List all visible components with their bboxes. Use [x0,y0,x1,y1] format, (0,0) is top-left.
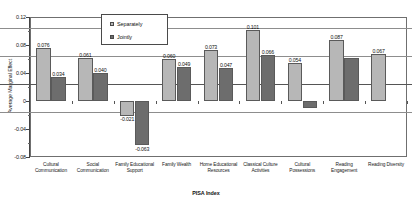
x-axis-tick-mark [156,101,157,104]
bar-value-label: 0.087 [324,34,350,40]
bar [371,54,386,101]
bar [261,55,276,101]
y-axis-tick-label: 0.12 [5,14,26,20]
x-axis-category-label: Cultural Communication [30,162,72,173]
x-axis-tick-mark [239,101,240,104]
gridline [0,112,412,113]
bar [177,67,192,101]
y-axis-tick-mark [26,17,30,18]
bar-value-label: 0.061 [72,52,98,58]
bar-value-label: -0.021 [114,116,140,122]
x-axis-tick-mark [198,101,199,104]
legend-label-jointly: Jointly [117,34,132,40]
bar-value-label: 0.067 [366,48,392,54]
x-axis-category-label: Reading Engagement [323,162,365,173]
y-axis-tick-mark [26,129,30,130]
x-axis-tick-mark [72,101,73,104]
x-axis-tick-mark [407,101,408,104]
y-axis-tick-mark [26,101,30,102]
y-axis-tick-mark [26,73,30,74]
gridline [0,28,412,29]
y-axis-tick-label: -0.08 [5,154,26,160]
legend-swatch-icon-jointly [110,35,114,39]
bar-value-label: 0.066 [255,49,281,55]
x-axis-tick-mark [323,101,324,104]
x-axis-title: PISA Index [0,190,412,196]
x-axis-category-label: Family Wealth [156,162,198,168]
y-axis-minor-tick [28,115,30,116]
bar-value-label: 0.040 [87,67,113,73]
x-axis-tick-mark [365,101,366,104]
bar [93,73,108,101]
bar [78,58,93,101]
bar [288,63,303,101]
legend: Separately Jointly [101,14,168,45]
x-axis-category-label: Reading Diversity [365,162,407,168]
bar-value-label: 0.054 [282,57,308,63]
legend-swatch-icon-separately [110,22,114,26]
x-axis-category-label: Family Educational Support [114,162,156,173]
legend-item-separately: Separately [110,21,142,27]
bar-value-label: 0.049 [171,61,197,67]
bar-value-label: 0.034 [45,71,71,77]
bar-value-label: 0.060 [156,53,182,59]
bar [344,58,359,101]
y-axis-tick-label: 0.08 [5,42,26,48]
y-axis-tick-label: -0.04 [5,126,26,132]
x-axis-category-label: Classical Culture Activities [239,162,281,173]
bar [204,50,219,101]
bar-value-label: 0.073 [198,44,224,50]
bar-chart: Average Marginal Effect 0.120.080.040-0.… [0,0,412,202]
y-axis-title: Average Marginal Effect [7,59,13,113]
bar [120,101,135,116]
legend-item-jointly: Jointly [110,34,132,40]
bar [51,77,66,101]
y-axis-tick-mark [26,45,30,46]
bar [329,40,344,101]
x-axis-category-label: Social Communication [72,162,114,173]
bar-value-label: 0.047 [213,62,239,68]
bar-value-label: 0.101 [240,24,266,30]
y-axis-minor-tick [28,87,30,88]
x-axis-category-label: Home Educational Resources [198,162,240,173]
bar [246,30,261,101]
y-axis-tick-label: 0.04 [5,70,26,76]
y-axis-tick-label: 0 [5,98,26,104]
y-axis-minor-tick [28,31,30,32]
y-axis-tick-mark [26,157,30,158]
y-axis-minor-tick [28,143,30,144]
bar-value-label: -0.063 [129,146,155,152]
y-axis-minor-tick [28,59,30,60]
legend-label-separately: Separately [117,21,142,27]
bar [303,101,318,108]
bar-value-label: 0.076 [30,42,56,48]
bar [135,101,150,145]
x-axis-tick-mark [281,101,282,104]
bar [219,68,234,101]
x-axis-tick-mark [114,101,115,104]
x-axis-category-label: Cultural Possessions [281,162,323,173]
